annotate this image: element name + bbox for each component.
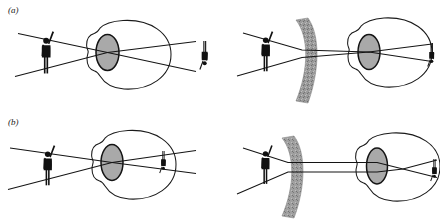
panel-b-right: [237, 133, 440, 218]
panel-a-left: [15, 20, 208, 89]
crystalline-lens-b-right: [367, 148, 388, 184]
retinal-image-b-right: [430, 159, 437, 181]
concave-corrective-lens-a-right: [296, 18, 317, 103]
object-person-a-right: [261, 31, 273, 71]
object-person-b-left: [43, 145, 55, 185]
panel-b-left: [8, 130, 196, 199]
concave-corrective-lens-b-right: [282, 136, 303, 218]
optics-figure: (a) (b): [0, 0, 440, 222]
retinal-image-a-left: [199, 41, 207, 70]
ray-from-head-b-right: [243, 148, 437, 178]
panel-a-right: [237, 18, 434, 103]
diagram-canvas: [0, 0, 440, 222]
object-person-b-right: [261, 145, 272, 184]
